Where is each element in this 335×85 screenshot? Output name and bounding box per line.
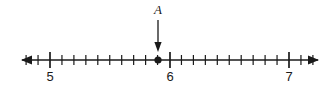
- tick-label-group: 567: [46, 69, 292, 84]
- point-label-a: A: [153, 2, 162, 17]
- number-line-canvas: 567 A: [0, 0, 335, 85]
- tick-label: 6: [166, 69, 173, 84]
- tick-label: 7: [285, 69, 292, 84]
- annotation-arrow-down-icon: [154, 42, 161, 52]
- tick-label: 5: [46, 69, 53, 84]
- data-point-a: [154, 56, 161, 63]
- number-line-figure: 567 A: [0, 0, 335, 85]
